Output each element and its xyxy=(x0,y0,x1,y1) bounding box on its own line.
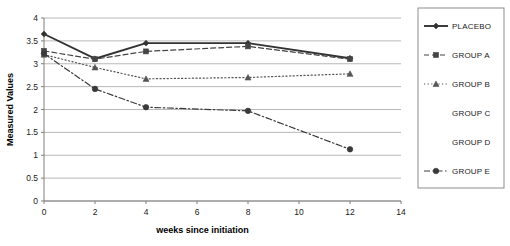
legend-label: GROUP E xyxy=(452,167,490,176)
x-tick-label: 14 xyxy=(396,207,406,217)
x-tick-label: 2 xyxy=(93,207,98,217)
y-tick-label: 2.5 xyxy=(26,82,38,92)
y-axis-title: Measured Values xyxy=(5,73,15,146)
data-point-circle xyxy=(245,108,251,114)
legend: PLACEBOGROUP AGROUP BGROUP CGROUP DGROUP… xyxy=(418,8,504,188)
data-point-circle xyxy=(433,168,439,174)
y-axis-ticks: 00.511.522.533.54 xyxy=(26,13,44,206)
y-tick-label: 2 xyxy=(33,105,38,115)
y-tick-label: 3 xyxy=(33,59,38,69)
legend-label: GROUP D xyxy=(452,138,491,147)
x-tick-label: 10 xyxy=(294,207,304,217)
x-axis-ticks: 02468101214 xyxy=(42,201,406,217)
data-point-circle xyxy=(143,104,149,110)
legend-label: GROUP C xyxy=(452,109,491,118)
data-point-square xyxy=(144,49,149,54)
legend-label: GROUP A xyxy=(452,51,490,60)
data-point-square xyxy=(93,57,98,62)
legend-label: GROUP B xyxy=(452,80,490,89)
y-tick-label: 0 xyxy=(33,196,38,206)
legend-item-group-c[interactable]: GROUP C xyxy=(452,109,491,118)
legend-item-group-d[interactable]: GROUP D xyxy=(452,138,491,147)
data-point-square xyxy=(246,44,251,49)
x-tick-label: 12 xyxy=(345,207,355,217)
y-tick-label: 1.5 xyxy=(26,127,38,137)
x-tick-label: 8 xyxy=(246,207,251,217)
x-tick-label: 4 xyxy=(144,207,149,217)
data-point-square xyxy=(348,57,353,62)
x-tick-label: 0 xyxy=(42,207,47,217)
y-tick-label: 3.5 xyxy=(26,36,38,46)
data-point-circle xyxy=(41,51,47,57)
y-tick-label: 4 xyxy=(33,13,38,23)
data-point-circle xyxy=(347,147,353,153)
chart-container: 00.511.522.533.5402468101214weeks since … xyxy=(0,0,510,246)
data-point-circle xyxy=(92,86,98,92)
line-chart: 00.511.522.533.5402468101214weeks since … xyxy=(0,0,510,246)
y-tick-label: 1 xyxy=(33,150,38,160)
y-tick-label: 0.5 xyxy=(26,173,38,183)
x-tick-label: 6 xyxy=(195,207,200,217)
legend-border xyxy=(418,8,504,188)
x-axis-title: weeks since initiation xyxy=(155,225,249,235)
legend-label: PLACEBO xyxy=(452,22,491,31)
data-point-square xyxy=(434,53,439,58)
